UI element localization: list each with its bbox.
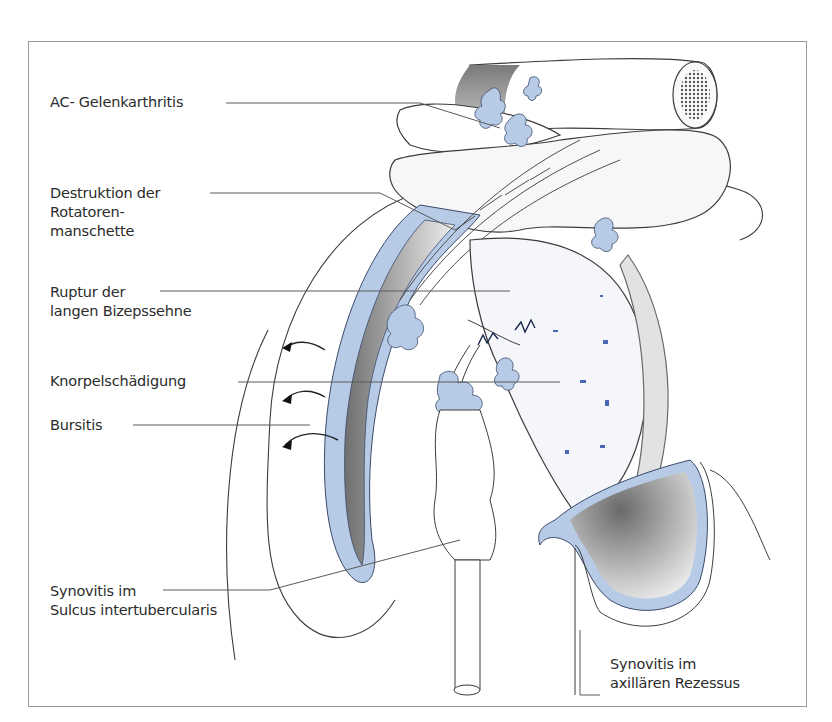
label-bursitis: Bursitis — [50, 416, 102, 435]
label-biceps-rupture: Ruptur der langen Bizepssehne — [50, 283, 191, 321]
label-line: Synovitis im — [610, 655, 740, 674]
label-line: AC- Gelenkarthritis — [50, 93, 183, 112]
clavicle — [390, 59, 731, 232]
label-line: Ruptur der — [50, 283, 191, 302]
label-line: Synovitis im — [50, 582, 217, 601]
arrow-heads — [282, 342, 292, 450]
label-line: Destruktion der — [50, 184, 160, 203]
biceps-sheath — [434, 410, 496, 695]
label-line: langen Bizepssehne — [50, 302, 191, 321]
label-line: Knorpelschädigung — [50, 372, 186, 391]
label-cartilage-damage: Knorpelschädigung — [50, 372, 186, 391]
label-synovitis-axillary: Synovitis im axillären Rezessus — [610, 655, 740, 693]
label-synovitis-sulcus: Synovitis im Sulcus intertubercularis — [50, 582, 217, 620]
label-line: manschette — [50, 222, 160, 241]
label-line: Sulcus intertubercularis — [50, 601, 217, 620]
label-line: axillären Rezessus — [610, 674, 740, 693]
label-line: Rotatoren- — [50, 203, 160, 222]
label-ac-joint-arthritis: AC- Gelenkarthritis — [50, 93, 183, 112]
label-rotator-cuff-destruction: Destruktion der Rotatoren- manschette — [50, 184, 160, 241]
label-line: Bursitis — [50, 416, 102, 435]
